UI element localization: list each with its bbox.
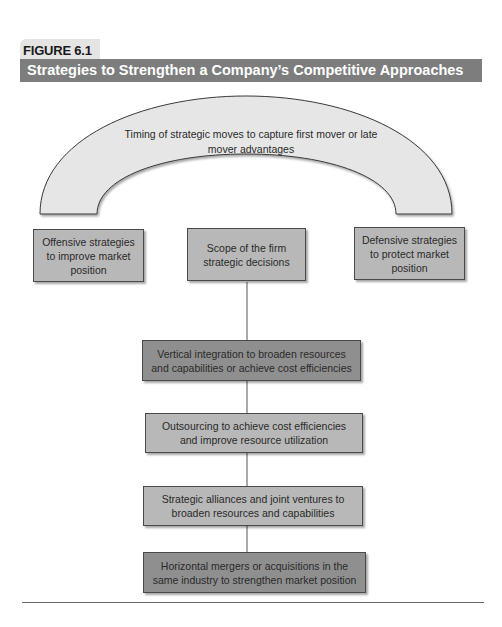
defensive-strategies-box: Defensive strategies to protect market p… [354,227,465,280]
diagram-canvas [0,0,502,627]
strategic-alliances-box: Strategic alliances and joint ventures t… [143,486,363,526]
horizontal-mergers-text: Horizontal mergers or acquisitions in th… [150,559,359,587]
offensive-strategies-text: Offensive strategies to improve market p… [40,235,137,277]
offensive-strategies-box: Offensive strategies to improve market p… [33,229,144,282]
scope-of-firm-text: Scope of the firm strategic decisions [194,241,299,269]
figure-bottom-rule [22,602,484,603]
timing-arch-label: Timing of strategic moves to capture fir… [120,127,382,157]
outsourcing-box: Outsourcing to achieve cost efficiencies… [145,413,363,453]
strategic-alliances-text: Strategic alliances and joint ventures t… [150,492,356,520]
horizontal-mergers-box: Horizontal mergers or acquisitions in th… [143,552,366,593]
vertical-integration-box: Vertical integration to broaden resource… [142,340,361,381]
defensive-strategies-text: Defensive strategies to protect market p… [361,233,458,275]
outsourcing-text: Outsourcing to achieve cost efficiencies… [152,419,356,447]
vertical-integration-text: Vertical integration to broaden resource… [149,347,354,375]
scope-of-firm-box: Scope of the firm strategic decisions [187,228,306,281]
